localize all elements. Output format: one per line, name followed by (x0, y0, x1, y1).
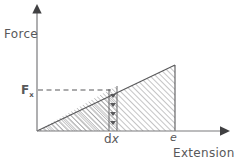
dx-x: x (112, 132, 119, 146)
force-symbol: F (21, 83, 29, 97)
area-left-of-dx (37, 90, 109, 131)
force-extension-diagram (0, 0, 249, 166)
dx-d: d (104, 132, 112, 146)
x-axis-arrow-icon (220, 126, 230, 135)
force-value-label: Fx (21, 84, 34, 99)
x-axis-label: Extension (173, 147, 235, 159)
y-axis-label: Force (4, 28, 38, 40)
force-subscript: x (29, 91, 34, 99)
y-axis-arrow-icon (32, 4, 41, 14)
extension-endpoint-label: e (170, 132, 177, 143)
dx-label: dx (104, 133, 119, 145)
